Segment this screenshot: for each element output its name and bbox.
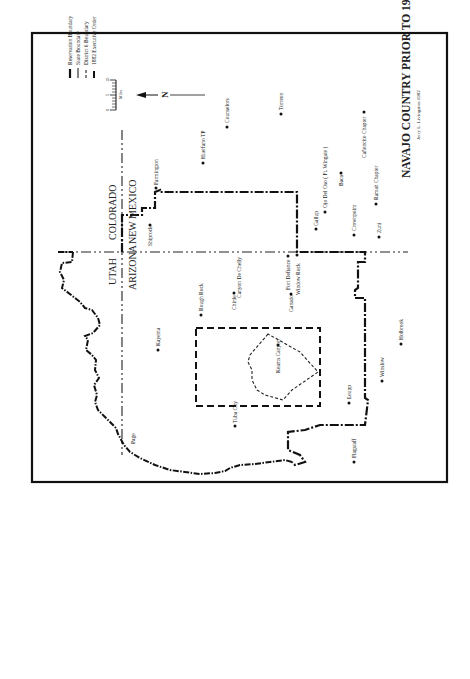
- state-label-utah: UTAH: [107, 258, 118, 285]
- north-label: N: [160, 91, 170, 98]
- place-dot-gallup: [315, 228, 318, 231]
- place-label-page: Page: [130, 433, 136, 444]
- legend: Reservation Boundary State Boundary Dist…: [67, 15, 123, 111]
- north-arrow: N: [136, 91, 205, 98]
- place-label-canoncito: Cañoncito Chapter: [361, 116, 367, 158]
- place-dot-zuni: [378, 236, 381, 239]
- place-dot-chinle: [233, 292, 236, 295]
- scale-tick-10: 10: [105, 77, 110, 82]
- place-dot-torreon: [280, 113, 283, 116]
- scale-unit: Miles: [118, 89, 123, 99]
- place-dot-farmington: [155, 187, 158, 190]
- state-label-arizona: ARIZONA: [127, 244, 138, 290]
- place-label-window-rock: Window Rock: [295, 263, 301, 295]
- place-dot-baca: [340, 172, 343, 175]
- place-dot-canoncito: [363, 111, 366, 114]
- place-dot-crownpoint: [353, 234, 356, 237]
- place-dot-tuba-city: [234, 425, 237, 428]
- place-label-ganado: Ganado: [288, 295, 294, 312]
- scale-tick-5: 5: [105, 93, 110, 96]
- place-label-canyon-de-chelly: Canyon De Chelly: [236, 257, 242, 298]
- scale-bar: 10 5 0 Miles: [105, 77, 123, 111]
- legend-1882-label: 1882 Executive Order: [91, 16, 97, 65]
- place-label-leupp: Leupp: [346, 385, 352, 399]
- place-label-winslow: Winslow: [379, 357, 385, 377]
- place-label-tuba-city: Tuba City: [232, 401, 238, 423]
- place-dot-kayenta: [157, 349, 160, 352]
- place-dot-shiprock: [149, 224, 152, 227]
- place-dot-flagstaff: [353, 461, 356, 464]
- place-label-shiprock: Shiprock: [147, 226, 153, 246]
- place-label-ojo-del-oso: Ojo Del Oso ( Ft. Wingate ): [322, 147, 329, 208]
- place-label-huerfano: Huerfano TP: [200, 131, 206, 159]
- place-dot-window-rock: [296, 254, 299, 257]
- executive-order-1882-boundary: [196, 328, 320, 406]
- legend-district6-label: District 6 Boundary: [83, 21, 89, 65]
- reservation-west-boundary: [60, 252, 292, 474]
- navajo-country-map: Reservation Boundary State Boundary Dist…: [0, 0, 470, 679]
- place-label-rough-rock: Rough Rock: [198, 283, 204, 311]
- place-dot-huerfano: [202, 162, 205, 165]
- legend-state-label: State Boundary: [75, 31, 81, 65]
- north-arrow-icon: [136, 92, 146, 98]
- place-label-chinle: Chinle: [231, 295, 237, 310]
- place-dot-ojo-del-oso: [324, 211, 327, 214]
- place-dot-fort-defiance: [287, 255, 290, 258]
- place-dot-ramah: [375, 203, 378, 206]
- place-label-farmington: Farmington: [153, 159, 159, 185]
- place-label-gallup: Gallup: [313, 211, 319, 226]
- place-dot-counselors: [226, 126, 229, 129]
- place-dot-winslow: [381, 380, 384, 383]
- state-label-new-mexico: NEW MEXICO: [127, 179, 138, 244]
- place-label-kayenta: Kayenta: [155, 327, 161, 346]
- district-6-boundary: [248, 334, 318, 400]
- place-label-torreon: Torreon: [278, 92, 284, 110]
- place-label-crownpoint: Crownpoint: [351, 204, 357, 231]
- place-label-baca: Baca: [338, 174, 344, 186]
- place-label-ramah: Ramah Chapter: [373, 165, 379, 200]
- place-label-flagstaff: Flagstaff: [351, 438, 357, 458]
- legend-reservation-label: Reservation Boundary: [67, 15, 73, 65]
- state-label-colorado: COLORADO: [107, 184, 118, 240]
- place-dot-holbrook: [400, 343, 403, 346]
- place-label-fort-defiance: Fort Defiance: [285, 259, 291, 290]
- place-label-keams-canyon: Keams Canyon: [275, 339, 281, 373]
- place-dot-rough-rock: [200, 314, 203, 317]
- place-label-holbrook: Holbrook: [398, 319, 404, 340]
- scale-tick-0: 0: [105, 108, 110, 111]
- place-label-counselors: Counselors: [224, 98, 230, 123]
- map-credit: Jerry L. Livingston 1982: [416, 90, 421, 140]
- place-dot-leupp: [348, 402, 351, 405]
- places: Farmington Huerfano TP Counselors Torreo…: [130, 92, 404, 463]
- place-label-zuni: Zuni: [376, 222, 382, 233]
- map-title: NAVAJO COUNTRY PRIOR TO 1974: [400, 0, 412, 178]
